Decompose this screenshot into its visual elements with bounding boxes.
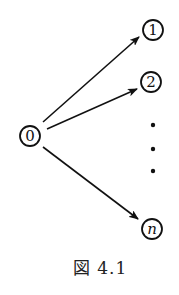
node-label: 1 [148, 21, 158, 39]
node-label: 0 [25, 127, 35, 145]
node-n: n [142, 219, 162, 239]
ellipsis-dot [151, 147, 155, 151]
ellipsis-dot [151, 169, 155, 173]
edge-0-to-n [43, 147, 138, 219]
edge-0-to-2 [47, 89, 137, 129]
edges [43, 37, 139, 219]
node-0: 0 [20, 126, 40, 146]
ellipsis-dot [151, 123, 155, 127]
node-label: n [147, 220, 157, 238]
star-graph: 012n [0, 0, 179, 295]
ellipsis-dots [151, 123, 155, 173]
node-1: 1 [143, 20, 163, 40]
figure-caption: 図 4.1 [0, 254, 179, 279]
nodes: 012n [20, 20, 163, 239]
node-2: 2 [141, 72, 161, 92]
node-label: 2 [146, 73, 156, 91]
